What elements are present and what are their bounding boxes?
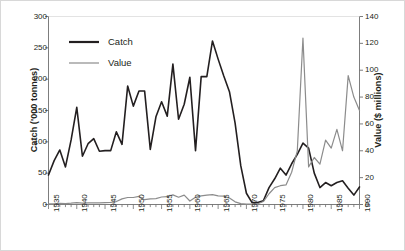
y-right-tick-label: 80 [365, 92, 374, 101]
x-tick-label: 1990 [363, 194, 372, 212]
legend-swatches [69, 42, 99, 63]
y-right-tick-label: 60 [365, 119, 374, 128]
y-right-tick-label: 140 [365, 12, 378, 21]
x-tick-label: 1975 [278, 194, 287, 212]
axis-tick-marks [45, 17, 363, 210]
chart-plot-area [1, 1, 405, 251]
y-right-tick-label: 120 [365, 38, 378, 47]
chart-figure: Catch ('000 tonnes) Value ($ millions) 0… [0, 0, 405, 251]
x-tick-label: 1940 [80, 194, 89, 212]
x-tick-label: 1965 [222, 194, 231, 212]
y-left-tick-label: 200 [34, 74, 47, 83]
x-tick-label: 1985 [335, 194, 344, 212]
legend-label-catch: Catch [108, 36, 133, 47]
axis-lines [49, 17, 360, 205]
y-left-tick-label: 250 [34, 43, 47, 52]
x-tick-label: 1980 [306, 194, 315, 212]
y-left-tick-label: 50 [38, 168, 47, 177]
series-line-catch [49, 41, 360, 203]
y-right-tick-label: 20 [365, 173, 374, 182]
x-tick-label: 1935 [52, 194, 61, 212]
x-tick-label: 1950 [137, 194, 146, 212]
y-right-tick-label: 40 [365, 146, 374, 155]
y-left-tick-label: 0 [43, 200, 47, 209]
y-left-tick-label: 150 [34, 106, 47, 115]
legend-label-value: Value [108, 57, 132, 68]
x-tick-label: 1960 [193, 194, 202, 212]
x-tick-label: 1945 [109, 194, 118, 212]
y-left-tick-label: 100 [34, 137, 47, 146]
x-tick-label: 1955 [165, 194, 174, 212]
x-tick-label: 1970 [250, 194, 259, 212]
y-left-tick-label: 300 [34, 12, 47, 21]
y-right-tick-label: 100 [365, 65, 378, 74]
